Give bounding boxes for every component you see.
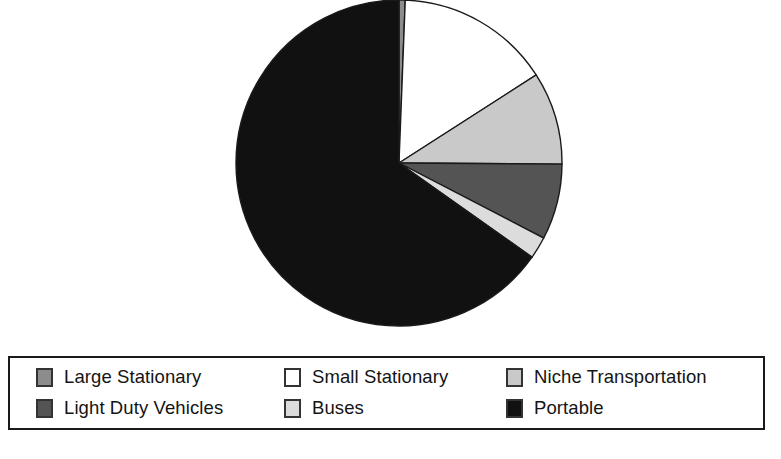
pie-chart-area [0, 0, 781, 340]
legend-swatch-niche-transportation [506, 368, 523, 387]
legend-item-niche-transportation[interactable]: Niche Transportation [506, 368, 763, 387]
legend-swatch-buses [284, 399, 301, 418]
legend-label-large-stationary: Large Stationary [64, 368, 201, 387]
legend-swatch-large-stationary [36, 368, 53, 387]
legend-label-niche-transportation: Niche Transportation [534, 368, 707, 387]
pie-chart-svg [0, 0, 781, 340]
legend-item-large-stationary[interactable]: Large Stationary [36, 368, 284, 387]
legend-label-light-duty-vehicles: Light Duty Vehicles [64, 399, 223, 418]
legend-swatch-small-stationary [284, 368, 301, 387]
legend-swatch-light-duty-vehicles [36, 399, 53, 418]
chart-legend: Large Stationary Small Stationary Niche … [8, 356, 765, 430]
legend-label-portable: Portable [534, 399, 604, 418]
legend-item-buses[interactable]: Buses [284, 399, 506, 418]
legend-item-portable[interactable]: Portable [506, 399, 763, 418]
legend-item-small-stationary[interactable]: Small Stationary [284, 368, 506, 387]
legend-grid: Large Stationary Small Stationary Niche … [10, 358, 763, 428]
figure-caption [60, 440, 760, 459]
legend-label-small-stationary: Small Stationary [312, 368, 448, 387]
page-canvas: Large Stationary Small Stationary Niche … [0, 0, 781, 459]
legend-item-light-duty-vehicles[interactable]: Light Duty Vehicles [36, 399, 284, 418]
legend-swatch-portable [506, 399, 523, 418]
legend-label-buses: Buses [312, 399, 364, 418]
